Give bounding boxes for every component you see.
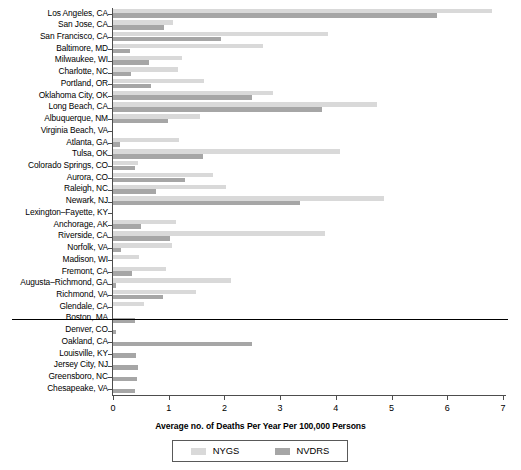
x-axis-tick — [224, 396, 225, 400]
bar-nvdrs — [113, 13, 437, 17]
y-axis-label: Oakland, CA — [0, 336, 108, 347]
y-axis-tick — [108, 342, 112, 343]
y-axis-label: Raleigh, NC — [0, 183, 108, 194]
y-axis-label: Anchorage, AK — [0, 219, 108, 230]
bar-nvdrs — [113, 271, 132, 275]
y-axis-label: San Francisco, CA — [0, 31, 108, 42]
y-axis-tick — [108, 166, 112, 167]
bar-nygs — [113, 196, 384, 200]
y-axis-label: Colorado Springs, CO — [0, 160, 108, 171]
bar-nygs — [113, 255, 139, 259]
bar-row — [113, 372, 505, 383]
x-axis-tick-label: 5 — [380, 402, 404, 414]
bar-nygs — [113, 79, 204, 83]
bar-row — [113, 114, 505, 125]
bar-row — [113, 160, 505, 171]
bar-nvdrs — [113, 25, 164, 29]
bar-row — [113, 348, 505, 359]
bar-row — [113, 78, 505, 89]
bar-nygs — [113, 302, 144, 306]
y-axis-tick — [108, 14, 112, 15]
y-axis-label: Madison, WI — [0, 254, 108, 265]
y-axis-label: Augusta–Richmond, GA — [0, 277, 108, 288]
x-axis-tick — [336, 396, 337, 400]
y-axis-tick — [108, 73, 112, 74]
y-axis-tick — [108, 389, 112, 390]
y-axis-label: Los Angeles, CA — [0, 8, 108, 19]
bar-row — [113, 196, 505, 207]
bar-nygs — [113, 56, 182, 60]
bar-nvdrs — [113, 95, 252, 99]
bar-nvdrs — [113, 201, 300, 205]
bar-nvdrs — [113, 107, 322, 111]
x-axis-tick-label: 4 — [324, 402, 348, 414]
bar-nygs — [113, 267, 166, 271]
y-axis-label: Albuquerque, NM — [0, 113, 108, 124]
bar-nygs — [113, 102, 377, 106]
y-axis-label: Chesapeake, VA — [0, 383, 108, 394]
y-axis-label: Aurora, CO — [0, 172, 108, 183]
y-axis-tick — [108, 260, 112, 261]
bar-row — [113, 20, 505, 31]
y-axis-label: Greensboro, NC — [0, 371, 108, 382]
bar-nvdrs — [113, 330, 116, 334]
bar-row — [113, 219, 505, 230]
y-axis-tick — [108, 366, 112, 367]
x-axis-tick-label: 3 — [268, 402, 292, 414]
legend-item-nvdrs: NVDRS — [275, 445, 330, 457]
y-axis-label: Jersey City, NJ — [0, 359, 108, 370]
y-axis-tick — [108, 178, 112, 179]
bar-row — [113, 43, 505, 54]
bar-row — [113, 149, 505, 160]
y-axis-label: Atlanta, GA — [0, 137, 108, 148]
y-axis-tick — [108, 84, 112, 85]
y-axis-tick — [108, 295, 112, 296]
bar-nvdrs — [113, 189, 156, 193]
bar-nygs — [113, 20, 173, 24]
x-axis-tick — [280, 396, 281, 400]
y-axis-tick — [108, 213, 112, 214]
bar-row — [113, 360, 505, 371]
y-axis-tick — [108, 96, 112, 97]
bar-nvdrs — [113, 166, 135, 170]
x-axis-tick-label: 7 — [491, 402, 515, 414]
bar-nvdrs — [113, 60, 149, 64]
y-axis-tick — [108, 377, 112, 378]
bar-nygs — [113, 32, 328, 36]
y-axis-tick — [108, 143, 112, 144]
bar-nvdrs — [113, 84, 151, 88]
bar-nygs — [113, 91, 273, 95]
bar-nygs — [113, 67, 178, 71]
y-axis-label: Boston, MA — [0, 312, 108, 323]
y-axis-tick — [108, 131, 112, 132]
bar-nygs — [113, 243, 172, 247]
y-axis-label: Lexington–Fayette, KY — [0, 207, 108, 218]
bar-nvdrs — [113, 224, 141, 228]
bar-nygs — [113, 220, 176, 224]
y-axis-label: Richmond, VA — [0, 289, 108, 300]
bar-row — [113, 125, 505, 136]
bar-nvdrs — [113, 49, 130, 53]
y-axis-tick — [108, 202, 112, 203]
x-axis-tick — [169, 396, 170, 400]
bar-row — [113, 336, 505, 347]
x-axis-tick — [392, 396, 393, 400]
bar-row — [113, 289, 505, 300]
y-axis-tick — [108, 26, 112, 27]
y-axis-tick — [108, 284, 112, 285]
bar-nygs — [113, 9, 492, 13]
y-axis-label: Long Beach, CA — [0, 101, 108, 112]
bar-nvdrs — [113, 283, 116, 287]
y-axis-label: Louisville, KY — [0, 348, 108, 359]
bar-nvdrs — [113, 295, 163, 299]
y-axis-tick — [108, 155, 112, 156]
y-axis-tick — [108, 37, 112, 38]
bar-row — [113, 184, 505, 195]
y-axis-label: Portland, OR — [0, 78, 108, 89]
bar-row — [113, 55, 505, 66]
legend-swatch-nygs — [191, 448, 206, 455]
bar-nvdrs — [113, 154, 203, 158]
bar-nygs — [113, 44, 263, 48]
bar-nygs — [113, 173, 213, 177]
x-axis-title: Average no. of Deaths Per Year Per 100,0… — [0, 421, 521, 431]
